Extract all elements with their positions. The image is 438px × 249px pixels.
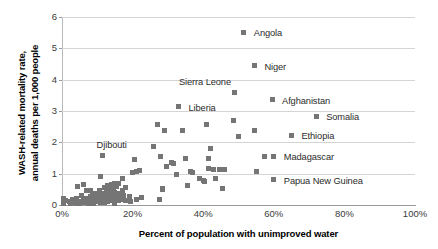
data-point bbox=[208, 146, 213, 151]
data-point bbox=[132, 157, 137, 162]
data-point-labeled bbox=[314, 114, 319, 119]
data-point bbox=[222, 167, 227, 172]
x-axis-title: Percent of population with unimproved wa… bbox=[62, 228, 415, 239]
point-label: Somalia bbox=[326, 112, 359, 122]
data-point bbox=[213, 176, 218, 181]
data-point bbox=[164, 164, 169, 169]
point-label: Afghanistan bbox=[282, 96, 330, 106]
data-point bbox=[211, 167, 216, 172]
data-point bbox=[180, 128, 185, 133]
data-point bbox=[81, 182, 86, 187]
x-axis-tick-label: 80% bbox=[322, 208, 366, 219]
x-axis-tick-label: 100% bbox=[393, 208, 437, 219]
data-point bbox=[75, 184, 80, 189]
y-axis-tick-label: 3 bbox=[27, 105, 57, 116]
data-point bbox=[162, 128, 167, 133]
y-axis-tick-label: 5 bbox=[27, 42, 57, 53]
data-point bbox=[254, 169, 259, 174]
x-axis-tick-label: 40% bbox=[181, 208, 225, 219]
scatter-chart: WASH-related mortality rate, annual deat… bbox=[0, 0, 438, 249]
data-point bbox=[217, 167, 222, 172]
data-point bbox=[139, 195, 144, 200]
x-axis-tick-label: 0% bbox=[40, 208, 84, 219]
y-axis-tick-label: 4 bbox=[27, 74, 57, 85]
point-label: Papua New Guinea bbox=[284, 176, 363, 186]
y-axis-tick-label: 1 bbox=[27, 168, 57, 179]
plot-area: AngolaNigerSierra LeoneAfghanistanLiberi… bbox=[62, 17, 415, 205]
data-point-labeled bbox=[176, 104, 181, 109]
point-label: Liberia bbox=[188, 103, 215, 113]
data-point-labeled bbox=[252, 63, 257, 68]
data-point bbox=[204, 122, 209, 127]
data-point bbox=[220, 186, 225, 191]
data-point bbox=[160, 187, 165, 192]
data-point bbox=[128, 199, 133, 204]
data-point bbox=[231, 118, 236, 123]
data-point bbox=[155, 122, 160, 127]
data-point bbox=[158, 154, 163, 159]
data-point bbox=[190, 170, 195, 175]
data-point bbox=[134, 197, 139, 202]
data-point-labeled bbox=[100, 153, 105, 158]
data-point-labeled bbox=[271, 177, 276, 182]
data-point bbox=[185, 183, 190, 188]
y-axis-tick-label: 2 bbox=[27, 136, 57, 147]
data-point bbox=[206, 166, 211, 171]
data-point bbox=[174, 172, 179, 177]
x-axis-tick-label: 20% bbox=[111, 208, 155, 219]
gridline bbox=[62, 111, 415, 112]
point-label: Djibouti bbox=[97, 140, 127, 150]
gridline bbox=[62, 17, 415, 18]
point-label: Angola bbox=[254, 28, 282, 38]
data-point bbox=[262, 154, 267, 159]
data-point bbox=[206, 156, 211, 161]
data-point bbox=[123, 185, 128, 190]
data-point bbox=[236, 134, 241, 139]
data-point bbox=[98, 174, 103, 179]
data-point-labeled bbox=[289, 133, 294, 138]
data-point bbox=[120, 176, 125, 181]
data-point bbox=[171, 161, 176, 166]
x-axis-tick-label: 60% bbox=[252, 208, 296, 219]
y-axis-tick-label: 6 bbox=[27, 11, 57, 22]
gridline bbox=[62, 174, 415, 175]
data-point bbox=[183, 156, 188, 161]
point-label: Niger bbox=[264, 62, 286, 72]
point-label: Ethiopia bbox=[301, 131, 334, 141]
data-point-labeled bbox=[270, 97, 275, 102]
gridline bbox=[62, 80, 415, 81]
data-point bbox=[151, 144, 156, 149]
point-label: Madagascar bbox=[284, 152, 334, 162]
data-point-labeled bbox=[241, 30, 246, 35]
data-point bbox=[202, 179, 207, 184]
data-point bbox=[252, 128, 257, 133]
data-point-labeled bbox=[232, 90, 237, 95]
point-label: Sierra Leone bbox=[179, 77, 231, 87]
data-point bbox=[157, 197, 162, 202]
data-point-labeled bbox=[271, 154, 276, 159]
data-point bbox=[116, 181, 121, 186]
data-point bbox=[137, 168, 142, 173]
gridline bbox=[62, 48, 415, 49]
